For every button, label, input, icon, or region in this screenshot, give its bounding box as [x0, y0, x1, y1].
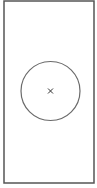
- diagram-canvas: [0, 0, 97, 188]
- center-x-mark-icon: [48, 89, 53, 94]
